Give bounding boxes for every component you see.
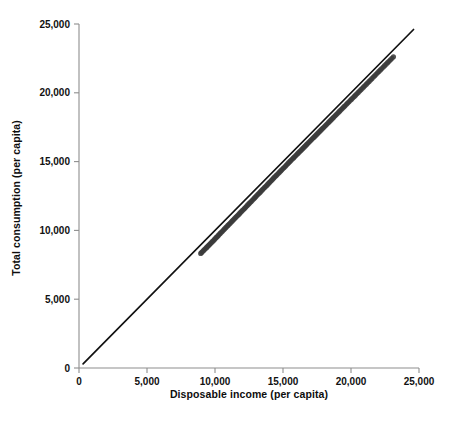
x-axis-title: Disposable income (per capita) xyxy=(170,388,328,400)
scatter-chart: 05,00010,00015,00020,00025,000 05,00010,… xyxy=(0,0,450,425)
x-tick-label: 10,000 xyxy=(200,376,231,387)
forty-five-degree-line xyxy=(83,30,413,364)
y-tick-label: 5,000 xyxy=(45,294,70,305)
y-tick-label: 20,000 xyxy=(39,87,70,98)
x-tick-label: 20,000 xyxy=(336,376,367,387)
x-tick-label: 25,000 xyxy=(404,376,435,387)
data-points-group xyxy=(198,54,396,256)
y-tick-label: 15,000 xyxy=(39,156,70,167)
y-tick-label: 10,000 xyxy=(39,225,70,236)
x-tick-label: 0 xyxy=(76,376,82,387)
y-axis-title: Total consumption (per capita) xyxy=(10,120,22,276)
y-tick-group: 05,00010,00015,00020,00025,000 xyxy=(39,19,79,374)
reference-line-group xyxy=(83,30,413,364)
x-tick-label: 5,000 xyxy=(134,376,159,387)
y-tick-label: 25,000 xyxy=(39,19,70,30)
chart-canvas: 05,00010,00015,00020,00025,000 05,00010,… xyxy=(0,0,450,425)
y-tick-label: 0 xyxy=(64,363,70,374)
x-tick-label: 15,000 xyxy=(268,376,299,387)
data-point xyxy=(391,54,396,59)
x-tick-group: 05,00010,00015,00020,00025,000 xyxy=(76,368,435,387)
